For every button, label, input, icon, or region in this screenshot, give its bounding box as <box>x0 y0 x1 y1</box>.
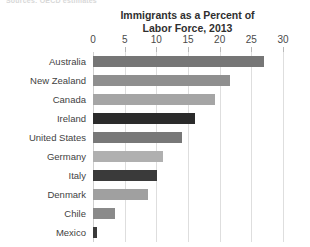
bar-canada <box>93 94 215 105</box>
category-label-australia: Australia <box>0 52 86 71</box>
x-axis-tick-labels: 051015202530 <box>0 33 310 47</box>
category-label-denmark: Denmark <box>0 185 86 204</box>
chart-title-line-1: Immigrants as a Percent of <box>80 9 295 22</box>
bar-rows: AustraliaNew ZealandCanadaIrelandUnited … <box>0 52 310 242</box>
category-label-mexico: Mexico <box>0 223 86 242</box>
bar-mexico <box>93 227 97 238</box>
x-tick-label-10: 10 <box>151 33 162 46</box>
x-tick-label-5: 5 <box>122 33 128 46</box>
bar-row: Ireland <box>0 109 310 128</box>
bar-ireland <box>93 113 195 124</box>
x-tick-label-20: 20 <box>214 33 225 46</box>
category-label-italy: Italy <box>0 166 86 185</box>
bar-germany <box>93 151 163 162</box>
bar-row: United States <box>0 128 310 147</box>
bar-row: Chile <box>0 204 310 223</box>
bar-row: Australia <box>0 52 310 71</box>
bar-row: Denmark <box>0 185 310 204</box>
cropped-source-text: Sources: OECD estimates <box>6 0 156 5</box>
category-label-new-zealand: New Zealand <box>0 71 86 90</box>
x-tick-label-30: 30 <box>277 33 288 46</box>
chart-title: Immigrants as a Percent of Labor Force, … <box>80 9 295 35</box>
bar-row: Germany <box>0 147 310 166</box>
category-label-ireland: Ireland <box>0 109 86 128</box>
bar-australia <box>93 56 264 67</box>
bar-chile <box>93 208 115 219</box>
category-label-canada: Canada <box>0 90 86 109</box>
bar-denmark <box>93 189 148 200</box>
bar-row: New Zealand <box>0 71 310 90</box>
x-tick-label-0: 0 <box>90 33 96 46</box>
bar-italy <box>93 170 157 181</box>
bar-chart-figure: Sources: OECD estimates Immigrants as a … <box>0 0 310 247</box>
bar-row: Mexico <box>0 223 310 242</box>
bar-row: Italy <box>0 166 310 185</box>
x-tick-label-25: 25 <box>246 33 257 46</box>
category-label-chile: Chile <box>0 204 86 223</box>
bar-row: Canada <box>0 90 310 109</box>
category-label-germany: Germany <box>0 147 86 166</box>
x-tick-label-15: 15 <box>182 33 193 46</box>
category-label-united-states: United States <box>0 128 86 147</box>
bar-united-states <box>93 132 182 143</box>
bar-new-zealand <box>93 75 230 86</box>
